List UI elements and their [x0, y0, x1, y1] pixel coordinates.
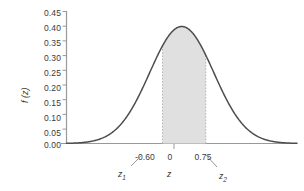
leader-line-z1: [131, 155, 142, 166]
plot-canvas: [0, 0, 304, 191]
chart-figure: f (z) 0.45 0.40 0.35 0.30 0.25 0.20 0.15…: [0, 0, 304, 191]
leader-lines-group: [131, 155, 217, 167]
leader-line-z2: [206, 155, 217, 167]
